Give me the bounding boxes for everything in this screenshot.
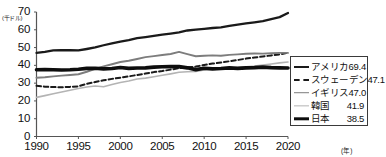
legend-item-label: 日本 [311, 114, 330, 124]
legend-item-label: スウェーデン [311, 75, 367, 85]
legend-item[interactable]: 日本38.5 [294, 112, 365, 125]
series-line [37, 13, 289, 53]
series-line [37, 67, 289, 70]
legend-item[interactable]: スウェーデン47.1 [294, 73, 365, 86]
legend-item[interactable]: イギリス47.0 [294, 86, 365, 99]
legend-line-swatch-icon [294, 62, 309, 72]
legend-item-label: アメリカ [311, 62, 349, 72]
legend-item-value: 69.4 [349, 62, 367, 72]
legend-item[interactable]: アメリカ69.4 [294, 60, 365, 73]
chart-legend: アメリカ69.4スウェーデン47.1イギリス47.0韓国41.9日本38.5 [290, 56, 368, 126]
legend-item-label: 韓国 [311, 101, 330, 111]
data-series-layer [37, 13, 289, 97]
legend-item-value: 47.0 [349, 88, 367, 98]
legend-line-swatch-icon [294, 114, 309, 124]
legend-line-swatch-icon [294, 75, 309, 85]
legend-item[interactable]: 韓国41.9 [294, 99, 365, 112]
series-line [37, 52, 289, 78]
legend-line-swatch-icon [294, 101, 309, 111]
legend-line-swatch-icon [294, 88, 309, 98]
legend-item-value: 41.9 [347, 101, 365, 111]
legend-item-value: 47.1 [367, 75, 385, 85]
legend-item-value: 38.5 [347, 114, 365, 124]
legend-item-label: イギリス [311, 88, 349, 98]
